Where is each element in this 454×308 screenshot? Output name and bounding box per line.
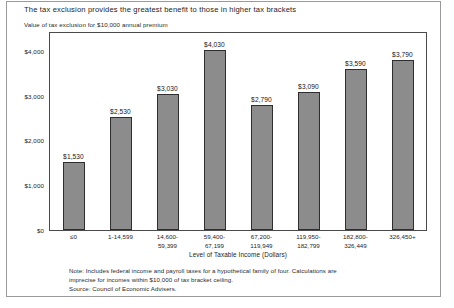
x-axis-tick-label: 67,200-119,949: [238, 233, 285, 250]
x-axis-tick-line: 67,200-: [238, 233, 285, 242]
x-axis-tick-line: 119,949: [238, 242, 285, 251]
y-axis-tick-label: $2,000: [24, 137, 44, 144]
bar-group: $2,790: [238, 33, 285, 230]
bar-value-label: $1,530: [63, 153, 84, 160]
x-axis-tick-label: 119,950-182,799: [285, 233, 332, 250]
bar[interactable]: [63, 162, 85, 231]
x-axis-title: Level of Taxable Income (Dollars): [49, 251, 427, 258]
note-line-3: Source: Council of Economic Advisers.: [69, 284, 337, 293]
bar[interactable]: [110, 117, 132, 230]
x-axis-tick-line: 14,600-: [144, 233, 191, 242]
bar-value-label: $4,030: [204, 41, 225, 48]
bar-value-label: $3,790: [392, 51, 413, 58]
y-axis-tick-label: $4,000: [24, 47, 44, 54]
bar-value-label: $3,030: [157, 85, 178, 92]
figure-panel: The tax exclusion provides the greatest …: [6, 1, 441, 297]
note-line-2: imprecise for incomes within $10,000 of …: [69, 275, 337, 284]
bar-value-label: $3,090: [298, 83, 319, 90]
chart-notes: Note: Includes federal income and payrol…: [69, 266, 337, 294]
note-line-1: Note: Includes federal income and payrol…: [69, 266, 337, 275]
bar[interactable]: [251, 105, 273, 230]
bar-group: $3,090: [285, 33, 332, 230]
bar-value-label: $2,790: [251, 96, 272, 103]
x-axis-tick-label: 59,400-67,199: [191, 233, 238, 250]
bar-group: $1,530: [50, 33, 97, 230]
y-axis: $0$1,000$2,000$3,000$4,000: [7, 32, 47, 231]
x-axis-tick-line: 59,399: [144, 242, 191, 251]
x-axis-tick-line: 326,449: [332, 242, 379, 251]
x-axis-tick-line: 182,799: [285, 242, 332, 251]
page-title: The tax exclusion provides the greatest …: [24, 5, 296, 15]
x-axis-tick-line: 326,450+: [379, 233, 426, 242]
bar[interactable]: [345, 69, 367, 230]
x-axis-tick-line: ≤0: [50, 233, 97, 242]
x-axis-tick-line: 182,800-: [332, 233, 379, 242]
bar-group: $4,030: [191, 33, 238, 230]
chart-subtitle: Value of tax exclusion for $10,000 annua…: [24, 20, 168, 29]
bar-value-label: $2,530: [110, 108, 131, 115]
bar-series: $1,530$2,530$3,030$4,030$2,790$3,090$3,5…: [50, 33, 426, 230]
x-axis-tick-label: ≤0: [50, 233, 97, 242]
x-axis-tick-line: 1-14,599: [97, 233, 144, 242]
bar-group: $3,790: [379, 33, 426, 230]
x-axis-tick-label: 1-14,599: [97, 233, 144, 242]
x-axis-tick-line: 67,199: [191, 242, 238, 251]
y-axis-tick-label: $0: [37, 227, 44, 234]
bar-group: $3,030: [144, 33, 191, 230]
bar[interactable]: [392, 60, 414, 230]
bar[interactable]: [204, 50, 226, 230]
bar[interactable]: [298, 92, 320, 230]
bar[interactable]: [157, 94, 179, 230]
y-axis-tick-label: $3,000: [24, 92, 44, 99]
x-axis-tick-label: 326,450+: [379, 233, 426, 242]
x-axis-tick-label: 182,800-326,449: [332, 233, 379, 250]
x-axis-tick-line: 119,950-: [285, 233, 332, 242]
y-axis-tick-label: $1,000: [24, 182, 44, 189]
bar-group: $3,590: [332, 33, 379, 230]
x-axis-tick-label: 14,600-59,399: [144, 233, 191, 250]
bar-group: $2,530: [97, 33, 144, 230]
x-axis-tick-line: 59,400-: [191, 233, 238, 242]
bar-value-label: $3,590: [345, 60, 366, 67]
